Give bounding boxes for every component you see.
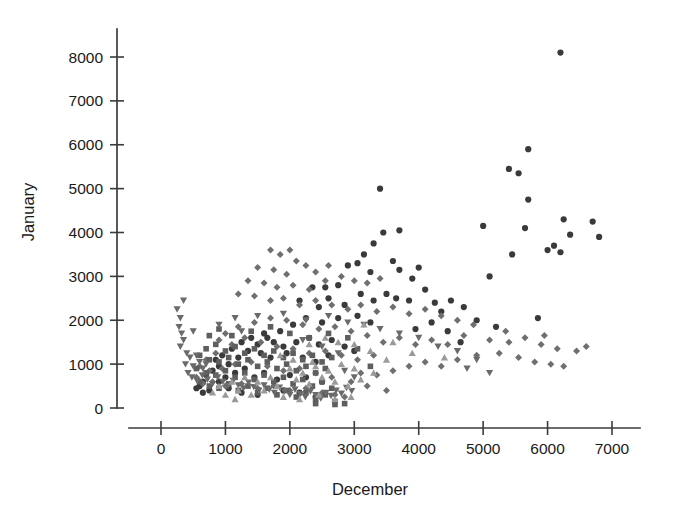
data-point-diamond (541, 332, 548, 339)
data-point-circle (412, 326, 418, 332)
data-point-triangle-down (182, 361, 189, 367)
data-point-diamond (235, 290, 242, 297)
data-point-diamond (364, 332, 371, 339)
data-point-square (255, 364, 261, 370)
data-point-square (213, 342, 219, 348)
y-tick-label: 1000 (69, 356, 104, 373)
data-point-diamond (560, 363, 567, 370)
data-point-triangle-up (347, 394, 354, 400)
data-point-diamond (331, 323, 338, 330)
data-point-triangle-down (177, 315, 184, 321)
data-point-circle (354, 260, 360, 266)
data-point-square (368, 364, 374, 370)
data-point-triangle-down (415, 335, 422, 341)
data-point-circle (280, 343, 286, 349)
data-point-diamond (454, 356, 461, 363)
data-point-square (300, 377, 306, 383)
data-point-diamond (515, 354, 522, 361)
data-point-triangle-down (190, 328, 197, 334)
data-point-square (203, 346, 209, 352)
data-point-square (326, 331, 332, 337)
data-point-square (281, 374, 287, 380)
y-tick-label: 2000 (69, 312, 104, 329)
data-point-diamond (496, 350, 503, 357)
data-point-circle (354, 313, 360, 319)
data-point-square (294, 368, 300, 374)
data-point-triangle-down (325, 313, 332, 319)
data-point-diamond (454, 317, 461, 324)
data-point-circle (290, 322, 296, 328)
data-point-square (332, 402, 338, 408)
data-point-triangle-up (338, 361, 345, 367)
data-point-diamond (389, 367, 396, 374)
data-point-circle (493, 324, 499, 330)
data-point-triangle-up (318, 374, 325, 380)
y-tick-label: 4000 (69, 224, 104, 241)
data-point-triangle-up (389, 339, 396, 345)
data-point-square (310, 353, 316, 359)
data-point-square (271, 348, 277, 354)
data-point-diamond (538, 341, 545, 348)
data-point-circle (390, 258, 396, 264)
data-point-triangle-up (231, 396, 238, 402)
data-point-diamond (280, 295, 287, 302)
data-point-triangle-down (396, 330, 403, 336)
data-point-square (248, 328, 254, 334)
data-point-square (284, 361, 290, 367)
data-point-circle (383, 291, 389, 297)
data-point-circle (293, 339, 299, 345)
data-point-triangle-down (473, 357, 480, 363)
scatter-chart: 010002000300040005000600070008000 010002… (0, 0, 674, 512)
data-point-triangle-up (280, 394, 287, 400)
data-point-circle (561, 216, 567, 222)
y-tick-label: 7000 (69, 92, 104, 109)
data-point-circle (406, 297, 412, 303)
data-point-diamond (444, 341, 451, 348)
data-point-diamond (357, 301, 364, 308)
data-point-diamond (251, 319, 258, 326)
data-point-triangle-down (186, 355, 193, 361)
data-point-circle (557, 249, 563, 255)
data-point-diamond (460, 332, 467, 339)
data-point-triangle-up (293, 376, 300, 382)
data-point-circle (277, 328, 283, 334)
data-point-circle (371, 240, 377, 246)
data-point-diamond (322, 277, 329, 284)
data-point-triangle-up (351, 365, 358, 371)
x-tick-label: 0 (157, 440, 166, 457)
x-tick-label: 7000 (595, 440, 630, 457)
data-point-circle (319, 319, 325, 325)
data-point-diamond (573, 347, 580, 354)
data-point-diamond (438, 312, 445, 319)
data-point-square (265, 359, 271, 365)
data-point-square (290, 350, 296, 356)
data-point-circle (371, 297, 377, 303)
data-point-diamond (406, 363, 413, 370)
data-point-triangle-up (248, 391, 255, 397)
data-point-square (319, 359, 325, 365)
data-point-circle (345, 262, 351, 268)
data-point-circle (367, 319, 373, 325)
data-point-triangle-down (180, 337, 187, 343)
data-point-diamond (251, 293, 258, 300)
y-tick-label: 3000 (69, 268, 104, 285)
data-point-circle (461, 304, 467, 310)
data-point-diamond (364, 383, 371, 390)
data-point-triangle-down (174, 306, 181, 312)
data-point-circle (335, 315, 341, 321)
data-point-triangle-up (357, 376, 364, 382)
data-point-diamond (254, 264, 261, 271)
data-point-diamond (531, 358, 538, 365)
data-point-triangle-down (454, 348, 461, 354)
data-point-diamond (280, 367, 287, 374)
y-axis: 010002000300040005000600070008000 (69, 29, 124, 417)
data-point-triangle-down (180, 298, 187, 304)
data-point-circle (396, 227, 402, 233)
data-point-diamond (244, 277, 251, 284)
data-point-circle (525, 196, 531, 202)
x-tick-label: 3000 (337, 440, 372, 457)
data-point-circle (551, 243, 557, 249)
data-point-diamond (412, 341, 419, 348)
data-point-diamond (328, 301, 335, 308)
y-tick-label: 6000 (69, 136, 104, 153)
